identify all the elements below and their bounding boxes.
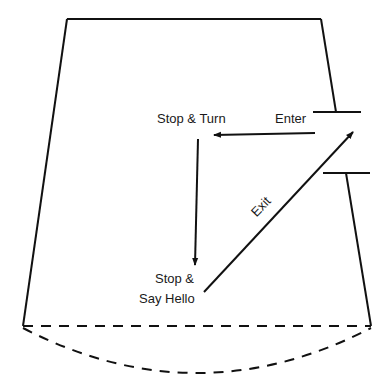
arrow-enter-to-turn <box>214 133 315 135</box>
dashed-arc <box>23 328 371 373</box>
room-outline-svg <box>0 0 391 386</box>
left-wall <box>23 19 67 326</box>
diagram-canvas: Stop & Turn Enter Stop & Say Hello Exit <box>0 0 391 386</box>
arrow-turn-to-hello <box>195 139 198 265</box>
label-stop: Stop & <box>155 272 194 285</box>
label-say-hello: Say Hello <box>139 292 195 305</box>
arrow-exit <box>204 132 353 292</box>
label-stop-turn: Stop & Turn <box>157 112 226 125</box>
right-wall-upper <box>321 19 336 112</box>
right-wall-lower <box>346 173 371 326</box>
label-enter: Enter <box>275 112 306 125</box>
